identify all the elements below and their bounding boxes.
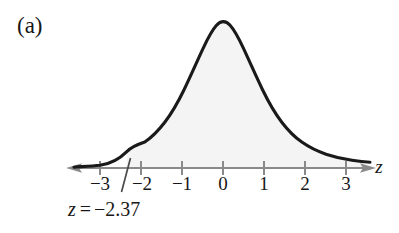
tick-label-neg1: −1 <box>172 174 192 193</box>
z-annotation-variable: z <box>68 198 76 220</box>
normal-curve-plot <box>0 0 399 233</box>
tick-label-neg2: −2 <box>132 174 152 193</box>
z-value-annotation: z=−2.37 <box>68 199 140 219</box>
z-value-marker <box>122 158 131 192</box>
x-axis-label: z <box>375 157 382 176</box>
shaded-area-region <box>127 22 362 168</box>
tick-label-0: 0 <box>218 174 228 193</box>
tick-label-2: 2 <box>300 174 310 193</box>
tick-label-3: 3 <box>341 174 351 193</box>
z-annotation-value: −2.37 <box>94 198 140 220</box>
tick-label-1: 1 <box>259 174 269 193</box>
figure-container: (a) −3 −2 −1 0 1 2 3 z z <box>0 0 399 233</box>
tick-label-neg3: −3 <box>90 174 110 193</box>
z-annotation-equals: = <box>80 198 91 220</box>
